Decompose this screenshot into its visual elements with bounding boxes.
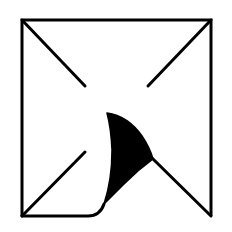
diagonal-top-left (22, 20, 85, 86)
diagonal-bottom-left (22, 152, 85, 216)
diagonal-bottom-right (152, 158, 211, 216)
frame-bottom-edge (22, 204, 104, 216)
page-curl-icon-container: Square frame with diagonal corner lines … (0, 0, 232, 232)
page-curl-envelope-icon (0, 0, 232, 232)
page-curl-flap (104, 113, 153, 204)
diagonal-top-right (148, 20, 211, 86)
